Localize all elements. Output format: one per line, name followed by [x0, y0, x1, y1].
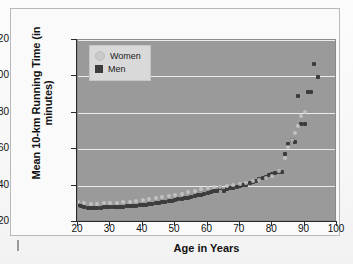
data-point-women	[290, 138, 294, 142]
legend-item-men: Men	[95, 63, 141, 75]
data-point-women	[89, 202, 93, 206]
data-point-women	[293, 131, 297, 135]
page-edge-tick-mark	[17, 240, 19, 251]
data-point-men	[309, 90, 313, 94]
data-point-women	[277, 169, 281, 173]
data-point-women	[238, 182, 242, 186]
legend-label-women: Women	[110, 51, 141, 61]
data-point-women	[141, 198, 145, 202]
x-tick-mark-20	[77, 221, 78, 226]
data-point-women	[154, 196, 158, 200]
x-tick-mark-60	[207, 221, 208, 226]
y-axis-title: Mean 10-km Running Time (in minutes)	[30, 10, 54, 196]
data-point-women	[299, 114, 303, 118]
legend-label-men: Men	[108, 64, 126, 74]
legend-item-women: Women	[95, 50, 141, 62]
y-axis-line	[76, 39, 77, 222]
data-point-men	[303, 122, 307, 126]
x-tick-mark-100	[336, 221, 337, 226]
data-point-women	[160, 195, 164, 199]
y-tick-mark-40	[71, 185, 77, 186]
data-point-women	[128, 200, 132, 204]
data-point-men	[296, 94, 300, 98]
data-point-women	[173, 193, 177, 197]
x-tick-mark-70	[239, 221, 240, 226]
data-point-women	[167, 194, 171, 198]
data-point-women	[115, 201, 119, 205]
x-tick-mark-30	[109, 221, 110, 226]
y-tick-label-60: 60	[0, 143, 9, 153]
women-circle-marker-icon	[95, 51, 105, 61]
data-point-women	[180, 192, 184, 196]
data-point-women	[296, 124, 300, 128]
data-point-women	[193, 189, 197, 193]
men-square-marker-icon	[95, 65, 103, 73]
data-point-men	[283, 152, 287, 156]
y-tick-mark-100	[71, 75, 77, 76]
data-point-men	[316, 75, 320, 79]
data-point-women	[270, 174, 274, 178]
data-point-women	[199, 187, 203, 191]
data-point-women	[283, 156, 287, 160]
gridline-y-80	[78, 113, 335, 114]
x-tick-mark-90	[304, 221, 305, 226]
gridline-y-60	[78, 149, 335, 150]
figure-frame: Women Men 20406080100120 203040506070809…	[10, 8, 340, 236]
data-point-women	[303, 110, 307, 114]
legend-box: Women Men	[89, 45, 151, 81]
x-tick-mark-50	[174, 221, 175, 226]
x-axis-title: Age in Years	[77, 242, 336, 254]
y-tick-mark-120	[71, 39, 77, 40]
y-tick-mark-80	[71, 112, 77, 113]
data-point-women	[225, 184, 229, 188]
y-tick-label-100: 100	[0, 70, 9, 80]
gridline-y-120	[78, 40, 335, 41]
y-tick-label-20: 20	[0, 216, 9, 226]
y-tick-label-80: 80	[0, 107, 9, 117]
data-point-women	[186, 190, 190, 194]
plot-area: Women Men	[77, 39, 336, 221]
data-point-women	[264, 176, 268, 180]
y-tick-label-40: 40	[0, 180, 9, 190]
data-point-men	[312, 62, 316, 66]
data-point-women	[206, 186, 210, 190]
y-tick-mark-60	[71, 148, 77, 149]
x-tick-mark-80	[271, 221, 272, 226]
figure-container: Women Men 20406080100120 203040506070809…	[0, 0, 353, 264]
data-point-women	[147, 197, 151, 201]
y-tick-label-120: 120	[0, 34, 9, 44]
x-tick-mark-40	[142, 221, 143, 226]
data-point-women	[257, 178, 261, 182]
